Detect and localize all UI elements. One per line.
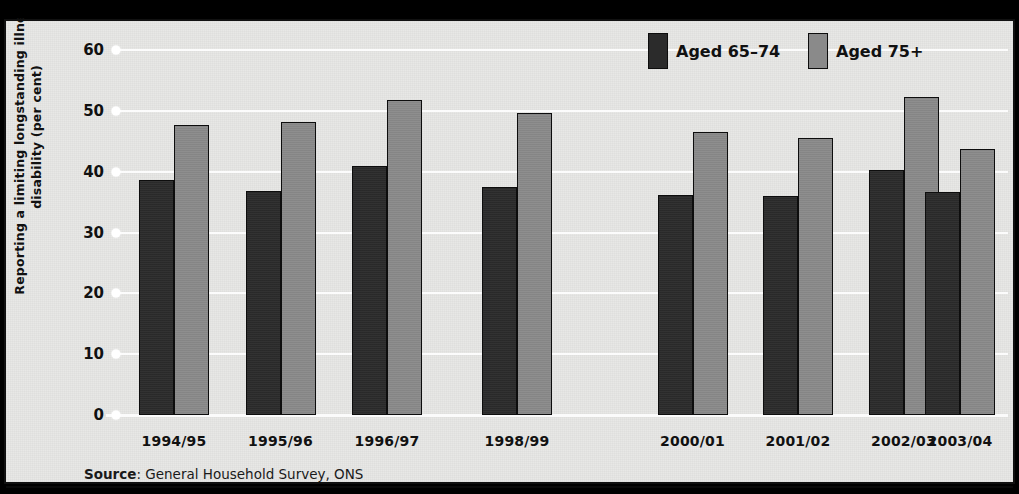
y-tick-dot-0 [112, 411, 121, 420]
bar-2001-02-series1 [798, 138, 833, 415]
bar-2000-01-series1 [693, 132, 728, 415]
y-tick-dot-60 [112, 46, 121, 55]
x-axis-label-2002-03: 2002/03 [871, 433, 936, 449]
y-tick-label-0: 0 [58, 406, 104, 424]
source-text: General Household Survey, ONS [145, 466, 363, 482]
source-label: Source [84, 466, 136, 482]
y-tick-label-20: 20 [58, 284, 104, 302]
y-tick-label-30: 30 [58, 224, 104, 242]
y-tick-label-10: 10 [58, 345, 104, 363]
source-separator: : [136, 466, 145, 482]
x-axis-label-1998-99: 1998/99 [485, 433, 550, 449]
legend-item-1[interactable]: Aged 75+ [808, 33, 923, 69]
y-axis-title: Reporting a limiting longstanding illnes… [11, 0, 45, 307]
y-tick-label-60: 60 [58, 41, 104, 59]
bar-2000-01-series0 [658, 195, 693, 415]
bar-2002-03-series0 [869, 170, 904, 415]
y-tick-dot-20 [112, 289, 121, 298]
top-black-border [0, 0, 1019, 18]
y-tick-label-50: 50 [58, 102, 104, 120]
bar-1996-97-series0 [352, 166, 387, 415]
bar-1995-96-series1 [281, 122, 316, 415]
bottom-black-border [0, 488, 1019, 494]
bar-2001-02-series0 [763, 196, 798, 415]
y-tick-label-40: 40 [58, 163, 104, 181]
x-axis-label-1994-95: 1994/95 [142, 433, 207, 449]
x-axis-label-1995-96: 1995/96 [248, 433, 313, 449]
right-black-border [1015, 0, 1019, 494]
y-tick-dot-30 [112, 228, 121, 237]
legend-item-0[interactable]: Aged 65–74 [648, 33, 780, 69]
legend-label-1: Aged 75+ [836, 42, 923, 61]
gridline-50 [116, 110, 1008, 112]
bar-2003-04-series1 [960, 149, 995, 415]
bar-1998-99-series1 [517, 113, 552, 415]
y-tick-dot-50 [112, 106, 121, 115]
left-black-border [0, 0, 4, 494]
dark-swatch [648, 33, 668, 69]
screenshot-root: Reporting a limiting longstanding illnes… [0, 0, 1019, 494]
bar-1996-97-series1 [387, 100, 422, 415]
bar-1998-99-series0 [482, 187, 517, 415]
bar-1995-96-series0 [246, 191, 281, 415]
bar-1994-95-series1 [174, 125, 209, 415]
source-note: Source: General Household Survey, ONS [84, 466, 363, 482]
grey-swatch [808, 33, 828, 69]
x-axis-label-2001-02: 2001/02 [766, 433, 831, 449]
legend-label-0: Aged 65–74 [676, 42, 780, 61]
y-tick-dot-40 [112, 167, 121, 176]
y-tick-dot-10 [112, 350, 121, 359]
chart-plot-area: Reporting a limiting longstanding illnes… [0, 0, 1019, 494]
x-axis-label-1996-97: 1996/97 [355, 433, 420, 449]
x-axis-label-2000-01: 2000/01 [660, 433, 725, 449]
bar-2003-04-series0 [925, 192, 960, 415]
x-axis-label-2003-04: 2003/04 [928, 433, 993, 449]
bar-1994-95-series0 [139, 180, 174, 415]
